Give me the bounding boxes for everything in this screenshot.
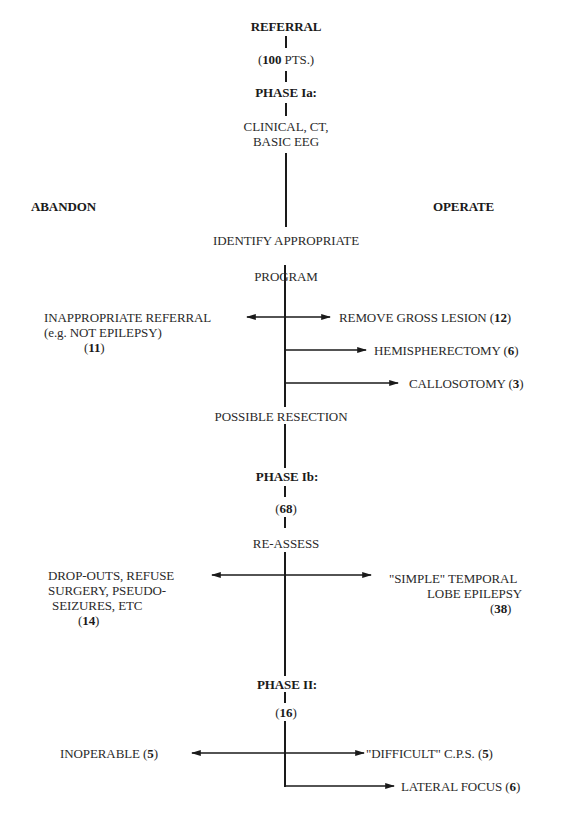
inoperable-branch: INOPERABLE (5) — [60, 746, 158, 761]
gross-lesion-branch: REMOVE GROSS LESION (12) — [339, 310, 511, 325]
difficult-cps-branch: "DIFFICULT" C.P.S. (5) — [366, 746, 493, 761]
referral-count: 100 — [262, 52, 281, 67]
possible-resection-node: POSSIBLE RESECTION — [215, 409, 348, 424]
operate-heading: OPERATE — [433, 199, 494, 214]
callosotomy-branch: CALLOSOTOMY (3) — [409, 376, 523, 391]
referral-count-node: (100 PTS.) — [258, 52, 314, 67]
simple-tle-count: 38 — [494, 601, 507, 616]
reassess-node: RE-ASSESS — [253, 536, 319, 551]
inappropriate-referral-branch: INAPPROPRIATE REFERRAL (e.g. NOT EPILEPS… — [44, 310, 211, 355]
identify-appropriate-node: IDENTIFY APPROPRIATE — [213, 233, 359, 248]
phase-ii-count: 16 — [280, 705, 293, 720]
referral-node: REFERRAL — [251, 19, 322, 34]
dropouts-branch: DROP-OUTS, REFUSE SURGERY, PSEUDO- SEIZU… — [48, 568, 174, 628]
simple-tle-branch: "SIMPLE" TEMPORAL LOBE EPILEPSY (38) — [389, 571, 575, 616]
phase-ib-count-node: (68) — [275, 501, 296, 516]
phase-ii-count-node: (16) — [275, 705, 296, 720]
hemispherectomy-branch: HEMISPHERECTOMY (6) — [374, 343, 518, 358]
gross-lesion-count: 12 — [494, 310, 507, 325]
phase-ia-node: PHASE Ia: — [255, 85, 317, 100]
program-node: PROGRAM — [254, 269, 318, 284]
abandon-heading: ABANDON — [31, 199, 96, 214]
dropouts-count: 14 — [82, 613, 95, 628]
clinical-node: CLINICAL, CT,BASIC EEG — [244, 119, 329, 149]
phase-ib-count: 68 — [280, 501, 293, 516]
inappropriate-count: 11 — [88, 340, 100, 355]
phase-ii-node: PHASE II: — [257, 677, 317, 692]
phase-ib-node: PHASE Ib: — [256, 469, 318, 484]
lateral-focus-branch: LATERAL FOCUS (6) — [401, 779, 520, 794]
